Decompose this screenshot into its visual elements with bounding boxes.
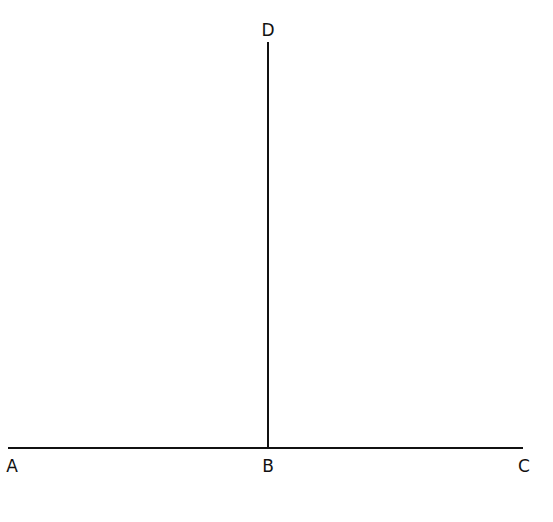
point-label-b: B [262,458,274,475]
point-label-c: C [518,458,530,475]
diagram-canvas: D A B C [0,0,553,522]
point-label-a: A [6,458,18,475]
point-label-d: D [261,22,274,39]
diagram-svg [0,0,553,522]
